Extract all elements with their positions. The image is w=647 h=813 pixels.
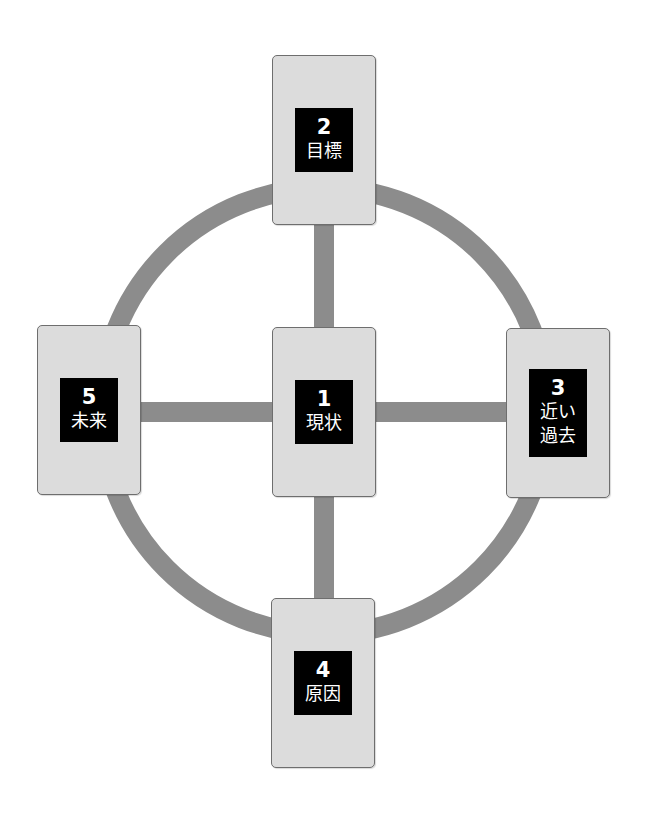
card-top: 2 目標	[272, 55, 376, 225]
card-left: 5 未来	[37, 325, 141, 495]
card-number: 2	[301, 115, 347, 139]
card-text: 未来	[66, 409, 112, 433]
card-number: 3	[535, 376, 581, 400]
card-number: 4	[300, 658, 346, 682]
card-bottom: 4 原因	[271, 598, 375, 768]
card-text: 現状	[301, 411, 347, 435]
card-center: 1 現状	[272, 327, 376, 497]
card-number: 1	[301, 387, 347, 411]
card-right: 3 近い 過去	[506, 328, 610, 498]
card-label: 3 近い 過去	[529, 369, 587, 457]
card-label: 5 未来	[60, 378, 118, 442]
card-text: 目標	[301, 139, 347, 163]
card-text: 近い 過去	[535, 400, 581, 448]
card-text: 原因	[300, 682, 346, 706]
card-number: 5	[66, 385, 112, 409]
card-label: 2 目標	[295, 108, 353, 172]
card-label: 1 現状	[295, 380, 353, 444]
card-label: 4 原因	[294, 651, 352, 715]
